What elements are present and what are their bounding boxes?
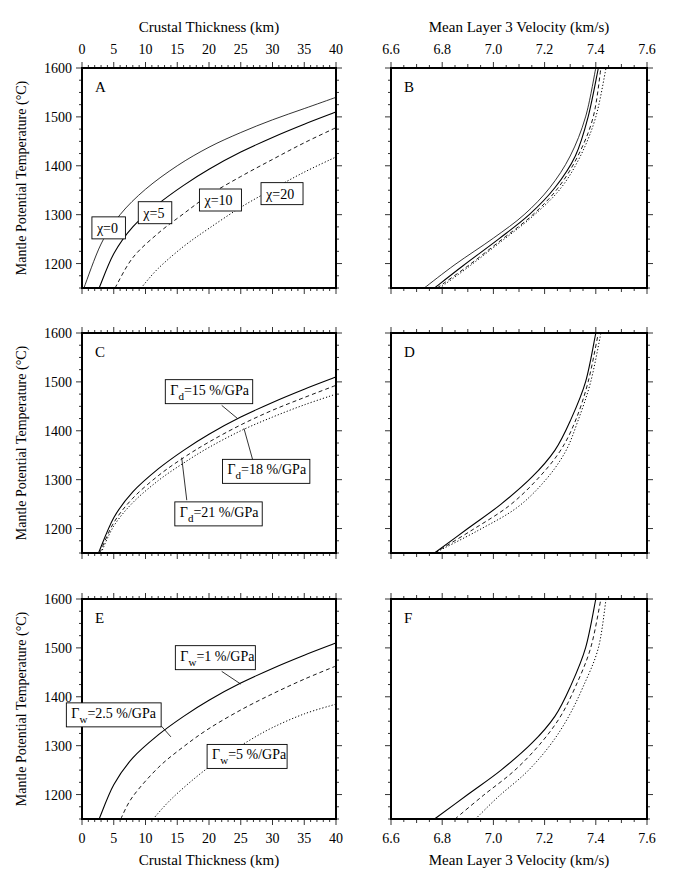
x-tick-label: 6.6 [382, 42, 400, 57]
x-tick-label: 15 [170, 831, 184, 846]
panel-letter: A [95, 79, 106, 95]
top-right-xlabel: Mean Layer 3 Velocity (km/s) [429, 19, 610, 36]
y-tick-label: 1600 [44, 592, 72, 607]
curve-dotted [435, 333, 601, 553]
curve-dashed [437, 68, 601, 288]
x-tick-label: 0 [79, 831, 86, 846]
x-tick-label: 30 [266, 831, 280, 846]
x-tick-label: 7.2 [536, 42, 554, 57]
panel-letter: C [95, 344, 105, 360]
x-tick-label: 25 [234, 831, 248, 846]
x-tick-label: 40 [329, 42, 343, 57]
leader-line [244, 428, 254, 462]
plot-frame [82, 68, 336, 288]
annotation-text: χ=0 [96, 221, 118, 236]
x-tick-label: 7.4 [587, 831, 605, 846]
y-tick-label: 1300 [44, 208, 72, 223]
curve-solid [435, 333, 596, 553]
annotation-text: χ=20 [265, 187, 294, 202]
y-tick-label: 1400 [44, 159, 72, 174]
curve-dotted [440, 68, 606, 288]
x-tick-label: 10 [139, 831, 153, 846]
figure-canvas: Crustal Thickness (km) Mean Layer 3 Velo… [0, 0, 674, 880]
leader-line [182, 458, 187, 501]
x-tick-label: 20 [202, 42, 216, 57]
panel-f: 6.66.87.07.27.47.6F [382, 593, 656, 846]
x-tick-label: 7.0 [485, 42, 503, 57]
x-tick-label: 5 [110, 831, 117, 846]
y-tick-label: 1500 [44, 641, 72, 656]
x-tick-label: 20 [202, 831, 216, 846]
y-axis-label: Mantle Potential Temperature (°C) [14, 345, 30, 540]
panel-a: 051015202530354012001300140015001600Mant… [14, 42, 343, 294]
plot-frame [391, 68, 647, 288]
plot-frame [391, 333, 647, 553]
x-tick-label: 6.8 [433, 42, 451, 57]
panel-d: D [385, 327, 653, 559]
x-tick-label: 5 [110, 42, 117, 57]
y-axis-label: Mantle Potential Temperature (°C) [14, 80, 30, 275]
panel-letter: B [404, 79, 414, 95]
annotation-text: χ=5 [142, 206, 164, 221]
panel-b: 6.66.87.07.27.47.6B [382, 42, 656, 294]
x-tick-label: 30 [266, 42, 280, 57]
x-tick-label: 7.6 [638, 831, 656, 846]
plot-frame [391, 599, 647, 819]
x-tick-label: 7.0 [485, 831, 503, 846]
x-tick-label: 7.4 [587, 42, 605, 57]
x-tick-label: 10 [139, 42, 153, 57]
y-tick-label: 1600 [44, 326, 72, 341]
leader-line [222, 405, 238, 418]
y-tick-label: 1300 [44, 739, 72, 754]
top-left-xlabel: Crustal Thickness (km) [139, 19, 280, 36]
x-tick-label: 6.6 [382, 831, 400, 846]
x-tick-label: 25 [234, 42, 248, 57]
curve-dashed [455, 599, 601, 819]
y-tick-label: 1600 [44, 61, 72, 76]
panel-letter: D [404, 344, 415, 360]
y-tick-label: 1200 [44, 522, 72, 537]
x-tick-label: 0 [79, 42, 86, 57]
curve-solid [435, 68, 599, 288]
annotation-text: χ=10 [203, 193, 232, 208]
curve-solid [435, 599, 596, 819]
x-tick-label: 7.6 [638, 42, 656, 57]
x-tick-label: 6.8 [433, 831, 451, 846]
panel-letter: E [95, 610, 104, 626]
x-tick-label: 15 [170, 42, 184, 57]
curve-solid-thin [424, 68, 596, 288]
bottom-right-xlabel: Mean Layer 3 Velocity (km/s) [429, 852, 610, 869]
y-tick-label: 1200 [44, 788, 72, 803]
y-axis-label: Mantle Potential Temperature (°C) [14, 611, 30, 806]
y-tick-label: 1500 [44, 375, 72, 390]
y-tick-label: 1200 [44, 257, 72, 272]
y-tick-label: 1500 [44, 110, 72, 125]
panel-e: 051015202530354012001300140015001600Mant… [14, 592, 343, 846]
curve-dashed [435, 333, 599, 553]
leader-line [222, 671, 241, 684]
panel-letter: F [404, 610, 412, 626]
x-tick-label: 35 [297, 831, 311, 846]
bottom-left-xlabel: Crustal Thickness (km) [139, 852, 280, 869]
x-tick-label: 35 [297, 42, 311, 57]
panel-c: 12001300140015001600Mantle Potential Tem… [14, 326, 342, 559]
y-tick-label: 1300 [44, 473, 72, 488]
x-tick-label: 7.2 [536, 831, 554, 846]
x-tick-label: 40 [329, 831, 343, 846]
y-tick-label: 1400 [44, 424, 72, 439]
figure: Crustal Thickness (km) Mean Layer 3 Velo… [0, 0, 674, 880]
